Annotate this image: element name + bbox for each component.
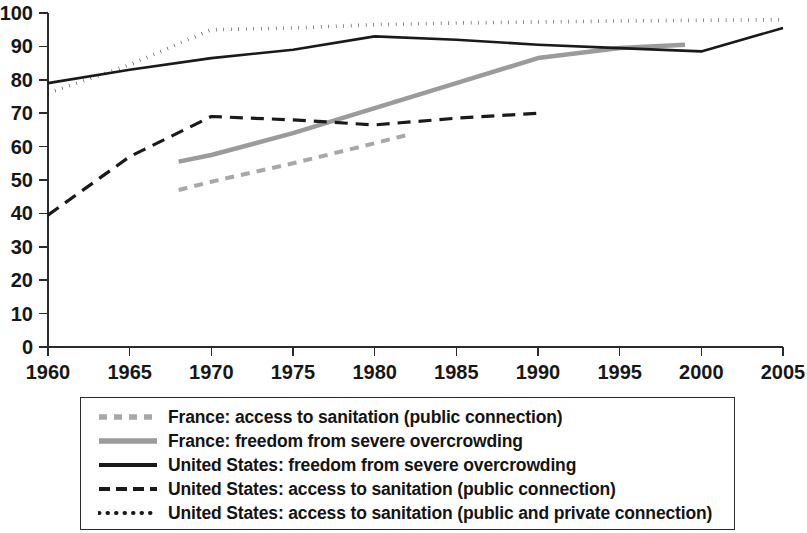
y-tick-label: 80 <box>11 69 33 91</box>
y-tick-label: 100 <box>0 2 33 24</box>
plot-svg: 0102030405060708090100 19601965197019751… <box>0 0 807 390</box>
x-tick-group: 1960196519701975198019851990199520002005 <box>26 347 806 383</box>
series-line <box>48 28 783 83</box>
legend-item[interactable]: United States: freedom from severe overc… <box>81 453 734 477</box>
series-line <box>48 20 783 94</box>
x-tick-label: 1985 <box>434 361 479 383</box>
legend-item-label: United States: access to sanitation (pub… <box>168 503 712 524</box>
x-tick-label: 1975 <box>271 361 316 383</box>
y-tick-label: 10 <box>11 303 33 325</box>
x-tick-label: 1970 <box>189 361 234 383</box>
series-line <box>179 45 685 162</box>
legend-item-label: United States: access to sanitation (pub… <box>168 479 616 500</box>
x-tick-label: 1995 <box>597 361 642 383</box>
y-tick-label: 90 <box>11 35 33 57</box>
legend-item-label: France: access to sanitation (public con… <box>168 407 562 428</box>
legend-line-swatch-icon <box>98 458 158 472</box>
x-tick-label: 1990 <box>516 361 561 383</box>
legend-item-label: United States: freedom from severe overc… <box>168 455 576 476</box>
legend-line-swatch-icon <box>98 506 158 520</box>
x-tick-label: 2000 <box>679 361 724 383</box>
legend-line-swatch-icon <box>98 434 158 448</box>
y-tick-group: 0102030405060708090100 <box>0 2 48 358</box>
x-tick-label: 2005 <box>761 361 806 383</box>
y-tick-label: 30 <box>11 236 33 258</box>
x-tick-label: 1980 <box>352 361 397 383</box>
legend-item[interactable]: United States: access to sanitation (pub… <box>81 477 734 501</box>
legend-line-swatch-icon <box>98 482 158 496</box>
line-chart-figure: 0102030405060708090100 19601965197019751… <box>0 0 807 533</box>
legend-rows: France: access to sanitation (public con… <box>81 405 734 525</box>
plot-area: 0102030405060708090100 19601965197019751… <box>0 0 807 390</box>
y-tick-label: 50 <box>11 169 33 191</box>
series-group <box>48 20 783 215</box>
x-tick-label: 1960 <box>26 361 71 383</box>
legend-item-label: France: freedom from severe overcrowding <box>168 431 523 452</box>
legend-item[interactable]: France: freedom from severe overcrowding <box>81 429 734 453</box>
y-tick-label: 20 <box>11 269 33 291</box>
y-tick-label: 40 <box>11 202 33 224</box>
series-line <box>179 135 408 190</box>
legend-item[interactable]: United States: access to sanitation (pub… <box>81 501 734 525</box>
legend-item[interactable]: France: access to sanitation (public con… <box>81 405 734 429</box>
y-tick-label: 60 <box>11 136 33 158</box>
y-tick-label: 70 <box>11 102 33 124</box>
legend-line-swatch-icon <box>98 410 158 424</box>
x-tick-label: 1965 <box>107 361 152 383</box>
y-tick-label: 0 <box>22 336 33 358</box>
chart-legend: France: access to sanitation (public con… <box>80 397 735 530</box>
